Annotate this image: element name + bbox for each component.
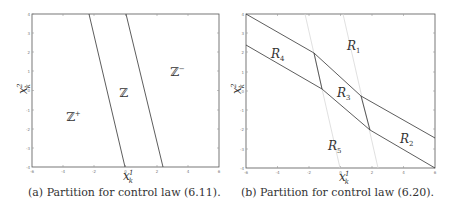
svg-text:-2: -2 [240, 127, 244, 132]
region-label-r5: R5 [327, 139, 342, 155]
svg-text:6: 6 [218, 169, 221, 174]
y-axis-label-b: xk2 [230, 83, 246, 94]
svg-text:2: 2 [371, 170, 374, 175]
region-label-r3: R3 [336, 86, 351, 102]
cross-line-b2 [361, 96, 370, 130]
svg-text:2: 2 [156, 169, 159, 174]
cross-line-b1 [314, 53, 322, 89]
svg-text:-3: -3 [26, 146, 30, 151]
boundary-line-a2 [126, 14, 163, 167]
panel-a: 4 3 2 1 0 -1 -2 -3 -4 -6 -4 -2 0 2 4 6 ℤ… [16, 12, 221, 185]
x-axis-label-a: xk1 [123, 169, 134, 185]
upper-boundary-b [246, 14, 435, 138]
svg-text:3: 3 [241, 31, 244, 36]
region-label-r2: R2 [399, 132, 414, 148]
region-label-r4: R4 [270, 47, 285, 63]
faint-line-b2 [343, 14, 378, 168]
svg-text:-6: -6 [30, 169, 34, 174]
region-label-r1: R1 [346, 39, 361, 55]
svg-text:4: 4 [27, 12, 30, 17]
svg-text:-6: -6 [244, 170, 248, 175]
svg-text:4: 4 [187, 169, 190, 174]
svg-text:2: 2 [27, 50, 30, 55]
svg-text:6: 6 [434, 170, 437, 175]
svg-text:3: 3 [27, 31, 30, 36]
svg-text:xk2: xk2 [230, 83, 246, 94]
x-axis-label-b: xk1 [339, 170, 350, 186]
region-label-z-minus: ℤ− [170, 65, 185, 79]
svg-text:-1: -1 [240, 108, 244, 113]
svg-text:xk2: xk2 [16, 83, 32, 94]
svg-text:-4: -4 [276, 170, 280, 175]
svg-text:-2: -2 [92, 169, 96, 174]
figure-canvas: 4 3 2 1 0 -1 -2 -3 -4 -6 -4 -2 0 2 4 6 ℤ… [0, 0, 451, 214]
svg-text:4: 4 [402, 170, 405, 175]
panel-b: 4 3 2 1 0 -1 -2 -3 -4 -6 -4 -2 0 2 4 6 R… [230, 12, 437, 186]
region-label-z-plus: ℤ+ [66, 110, 81, 124]
y-axis-label-a: xk2 [16, 83, 32, 94]
region-label-z: ℤ [119, 86, 128, 100]
svg-text:-3: -3 [240, 147, 244, 152]
svg-text:2: 2 [241, 50, 244, 55]
caption-a: (a) Partition for control law (6.11). [28, 186, 221, 199]
svg-text:4: 4 [241, 12, 244, 17]
svg-text:-2: -2 [307, 170, 311, 175]
svg-text:1: 1 [27, 69, 30, 74]
svg-text:-2: -2 [26, 127, 30, 132]
svg-text:-1: -1 [26, 108, 30, 113]
caption-b: (b) Partition for control law (6.20). [241, 186, 434, 199]
svg-text:-4: -4 [61, 169, 65, 174]
svg-text:1: 1 [241, 70, 244, 75]
